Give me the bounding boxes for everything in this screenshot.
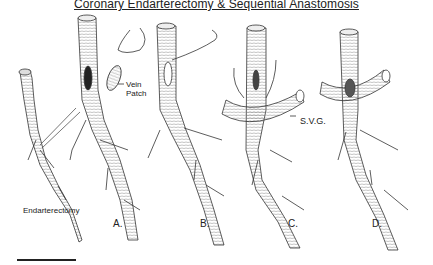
- endarterectomy-core-icon: [19, 69, 82, 242]
- vein-patch-label: Vein Patch: [126, 80, 146, 98]
- artery-d-icon: [320, 29, 408, 250]
- artery-c-icon: [222, 25, 304, 248]
- panel-label-a: A.: [113, 218, 122, 229]
- endarterectomy-label: Endarterectomy: [23, 206, 79, 215]
- panel-label-b: B.: [200, 218, 209, 229]
- svg-label: S.V.G.: [300, 117, 326, 126]
- vein-patch-label-line2: Patch: [126, 89, 146, 98]
- artery-b-icon: [148, 23, 224, 245]
- arrow-icon: [40, 108, 76, 145]
- illustration: [0, 0, 433, 265]
- artery-a-icon: [70, 15, 140, 240]
- panel-label-d: D.: [372, 218, 382, 229]
- panel-label-c: C.: [288, 218, 298, 229]
- scale-bar: [17, 259, 76, 261]
- vein-patch-label-line1: Vein: [126, 80, 146, 89]
